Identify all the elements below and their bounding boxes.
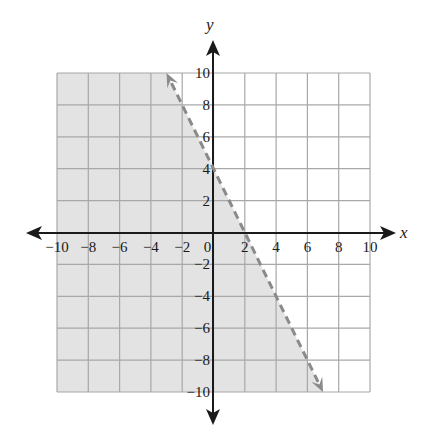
y-tick-label: 6: [203, 129, 211, 145]
y-tick-label: 8: [203, 97, 211, 113]
x-tick-label: 2: [241, 239, 249, 255]
y-tick-label: −10: [187, 384, 210, 400]
x-tick-label: −4: [143, 239, 159, 255]
y-tick-label: 2: [203, 193, 211, 209]
x-axis-label: x: [399, 223, 408, 242]
y-tick-label: −6: [194, 320, 210, 336]
x-tick-label: −2: [174, 239, 190, 255]
x-tick-label: 6: [304, 239, 312, 255]
x-tick-label: −6: [112, 239, 128, 255]
y-tick-label: 10: [195, 65, 210, 81]
x-tick-label: 4: [272, 239, 280, 255]
x-tick-label: −8: [80, 239, 96, 255]
y-tick-label: −8: [194, 352, 210, 368]
x-tick-label: 8: [335, 239, 343, 255]
coordinate-plane: x y −10−8−6−4−20246810108642−2−4−6−8−10: [0, 0, 426, 434]
y-tick-label: 4: [203, 161, 211, 177]
y-axis-label: y: [204, 15, 214, 34]
y-tick-label: −4: [194, 288, 210, 304]
x-tick-label: 10: [363, 239, 378, 255]
x-tick-label: −10: [45, 239, 68, 255]
x-tick-label: 0: [204, 239, 212, 255]
y-tick-label: −2: [194, 256, 210, 272]
